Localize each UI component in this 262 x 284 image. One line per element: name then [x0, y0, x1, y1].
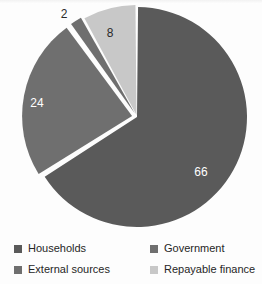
- legend-label-households: Households: [28, 238, 86, 259]
- legend-swatch-icon-government: [150, 245, 158, 253]
- legend-swatch-icon-repayable-finance: [150, 266, 158, 274]
- pie-plot-area: 66 24 2 8: [0, 0, 262, 236]
- legend-swatch-icon-external-sources: [14, 266, 22, 274]
- legend-item-government[interactable]: Government: [150, 238, 262, 259]
- legend-item-external-sources[interactable]: External sources: [14, 259, 150, 280]
- slice-value-government: 24: [30, 96, 44, 110]
- legend-label-external-sources: External sources: [28, 259, 110, 280]
- slice-value-repayable-finance: 8: [107, 26, 114, 40]
- chart-legend: Households Government External sources R…: [0, 238, 262, 284]
- legend-label-repayable-finance: Repayable finance: [164, 259, 255, 280]
- legend-item-repayable-finance[interactable]: Repayable finance: [150, 259, 262, 280]
- slice-value-households: 66: [194, 165, 208, 179]
- legend-item-households[interactable]: Households: [14, 238, 150, 259]
- pie-svg: 66 24 2 8: [0, 0, 262, 236]
- slice-value-external-sources: 2: [61, 7, 68, 21]
- pie-chart-figure: 66 24 2 8 Households Government External…: [0, 0, 262, 284]
- legend-label-government: Government: [164, 238, 225, 259]
- legend-swatch-icon-households: [14, 245, 22, 253]
